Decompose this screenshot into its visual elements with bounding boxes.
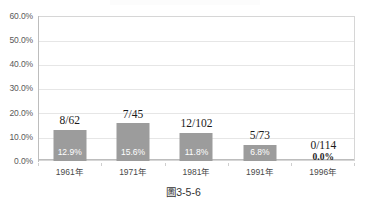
x-tick-mark — [165, 163, 166, 166]
x-tick-mark — [38, 163, 39, 166]
y-tick-label-30: 30.0% — [9, 84, 33, 93]
bar-chart: 60.0% 50.0% 40.0% 30.0% 20.0% 10.0% 0.0%… — [0, 0, 367, 205]
bar-value-label: 11.8% — [180, 147, 213, 157]
bar-value-label: 6.8% — [243, 147, 276, 157]
figure-caption: 圖3-5-6 — [0, 186, 367, 199]
bar-fraction-label: 12/102 — [165, 117, 228, 129]
bar-group-1961[interactable]: 8/62 12.9% — [38, 16, 101, 161]
bar-fraction-label: 7/45 — [101, 108, 164, 120]
bar-fraction-label: 5/73 — [228, 129, 291, 141]
bar[interactable]: 12.9% — [53, 130, 86, 161]
bar-group-1991[interactable]: 5/73 6.8% — [228, 16, 291, 161]
x-tick-label-1991: 1991年 — [228, 167, 291, 177]
bar-group-1971[interactable]: 7/45 15.6% — [101, 16, 164, 161]
x-tick-mark — [228, 163, 229, 166]
y-tick-label-40: 40.0% — [9, 60, 33, 69]
top-edge-artifact — [110, 0, 260, 5]
y-tick-label-20: 20.0% — [9, 109, 33, 118]
bar[interactable]: 6.8% — [243, 145, 276, 162]
bar-group-1981[interactable]: 12/102 11.8% — [165, 16, 228, 161]
x-tick-mark — [354, 163, 355, 166]
x-axis: 1961年 1971年 1981年 1991年 1996年 — [38, 163, 355, 179]
x-tick-mark — [291, 163, 292, 166]
bar-value-label: 12.9% — [53, 147, 86, 157]
y-axis: 60.0% 50.0% 40.0% 30.0% 20.0% 10.0% 0.0% — [0, 0, 36, 205]
y-tick-label-10: 10.0% — [9, 133, 33, 142]
x-tick-label-1961: 1961年 — [38, 167, 101, 177]
bar-value-label: 0.0% — [307, 152, 340, 162]
y-tick-label-0: 0.0% — [14, 157, 33, 166]
x-tick-mark — [101, 163, 102, 166]
y-tick-label-60: 60.0% — [9, 12, 33, 21]
bar-value-label: 15.6% — [117, 147, 150, 157]
bar-group-1996[interactable]: 0/114 0.0% — [292, 16, 355, 161]
bar[interactable]: 15.6% — [117, 123, 150, 161]
x-tick-label-1981: 1981年 — [165, 167, 228, 177]
bars-layer: 8/62 12.9% 7/45 15.6% 12/102 11.8% 5/73 … — [38, 16, 355, 161]
bar-fraction-label: 0/114 — [292, 139, 355, 151]
x-tick-label-1996: 1996年 — [292, 167, 355, 177]
bar[interactable]: 11.8% — [180, 133, 213, 162]
bar-fraction-label: 8/62 — [38, 114, 101, 126]
y-tick-label-50: 50.0% — [9, 36, 33, 45]
x-tick-label-1971: 1971年 — [101, 167, 164, 177]
